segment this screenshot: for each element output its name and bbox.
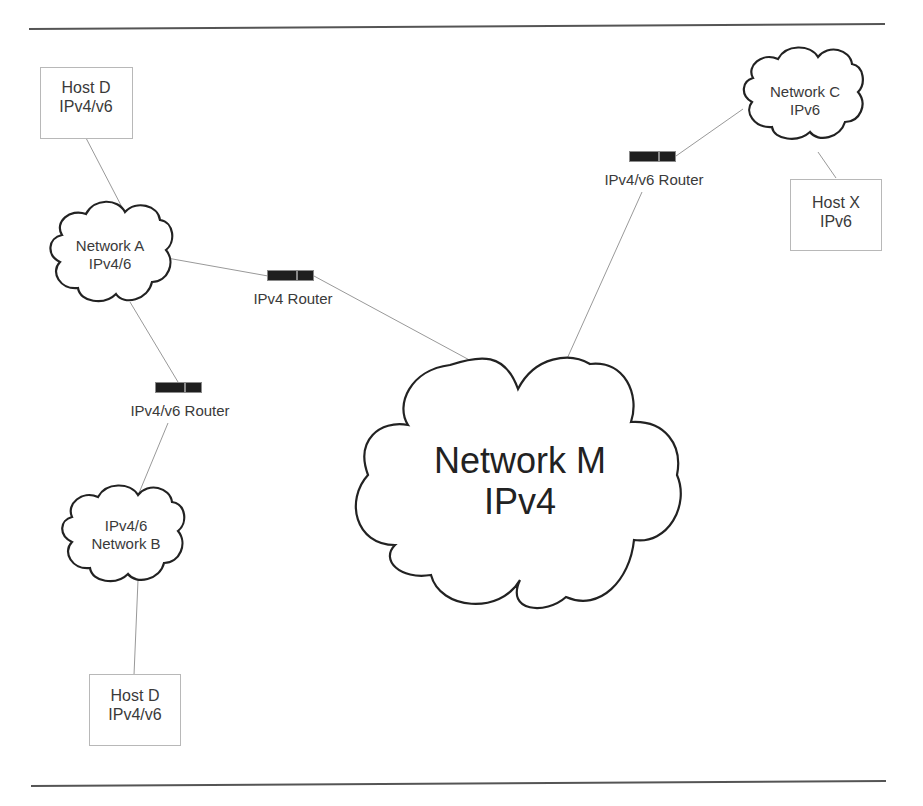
link-networka-ipv4router (167, 258, 268, 276)
network-c-label: Network C IPv6 (752, 83, 858, 119)
link-networka-leftrouter (130, 302, 178, 382)
link-networkm-rightrouter (566, 192, 642, 361)
link-leftrouter-networkb (139, 423, 168, 493)
right-router-label: IPv4/v6 Router (590, 171, 718, 189)
top-rule (29, 24, 885, 29)
left-router-icon (155, 382, 202, 393)
link-rightrouter-networkc (676, 109, 743, 156)
link-networkb-hostd (134, 580, 138, 675)
network-m-label: Network M IPv4 (410, 440, 630, 523)
link-networkc-hostx (818, 152, 836, 178)
host-d-top-label: Host D IPv4/v6 (40, 78, 132, 116)
right-router-icon (629, 151, 676, 162)
host-d-bottom-label: Host D IPv4/v6 (89, 686, 181, 724)
left-router-label: IPv4/v6 Router (116, 402, 244, 420)
bottom-rule (31, 781, 886, 786)
host-x-label: Host X IPv6 (790, 193, 882, 231)
ipv4-router-icon (267, 270, 314, 281)
network-a-label: Network A IPv4/6 (60, 237, 160, 273)
network-b-label: IPv4/6 Network B (72, 517, 180, 553)
ipv4-router-label: IPv4 Router (238, 290, 348, 308)
